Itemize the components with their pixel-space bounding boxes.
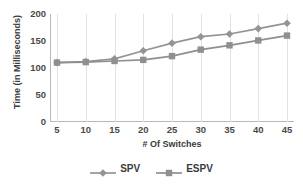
plot-area	[50, 14, 294, 122]
x-tick-label: 30	[186, 124, 216, 135]
x-tick-label: 10	[71, 124, 101, 135]
data-point-marker	[283, 19, 291, 27]
x-axis-tick-labels: 51015202530354045	[50, 124, 294, 138]
legend-item-espv[interactable]: ESPV	[156, 163, 213, 174]
y-tick-label: 150	[20, 36, 46, 46]
data-point-marker	[255, 37, 261, 43]
x-tick-label: 40	[243, 124, 273, 135]
line-chart: Time (in Milliseconds) 050100150200 5101…	[0, 0, 303, 188]
x-tick-label: 35	[215, 124, 245, 135]
data-point-marker	[226, 30, 234, 38]
legend-square-marker-icon	[156, 164, 182, 174]
legend-label: SPV	[120, 163, 140, 174]
y-tick-label: 50	[20, 90, 46, 100]
data-point-marker	[254, 25, 262, 33]
x-tick-label: 45	[272, 124, 302, 135]
data-point-marker	[226, 42, 232, 48]
legend-label: ESPV	[186, 163, 213, 174]
x-tick-label: 20	[128, 124, 158, 135]
x-tick-label: 5	[42, 124, 72, 135]
data-point-marker	[139, 47, 147, 55]
chart-legend: SPVESPV	[0, 163, 303, 174]
legend-item-spv[interactable]: SPV	[90, 163, 140, 174]
data-point-marker	[168, 39, 176, 47]
y-tick-label: 100	[20, 63, 46, 73]
y-tick-label: 200	[20, 9, 46, 19]
data-point-marker	[54, 59, 60, 65]
data-point-marker	[140, 57, 146, 63]
legend-diamond-marker-icon	[90, 164, 116, 174]
data-point-marker	[83, 59, 89, 65]
x-tick-label: 15	[100, 124, 130, 135]
y-axis-tick-labels: 050100150200	[20, 0, 46, 188]
x-axis-title: # Of Switches	[50, 139, 294, 149]
data-point-marker	[197, 33, 205, 41]
data-point-marker	[111, 58, 117, 64]
x-tick-label: 25	[157, 124, 187, 135]
data-point-marker	[284, 32, 290, 38]
data-point-marker	[169, 53, 175, 59]
data-point-marker	[198, 46, 204, 52]
series-plot	[50, 14, 294, 122]
